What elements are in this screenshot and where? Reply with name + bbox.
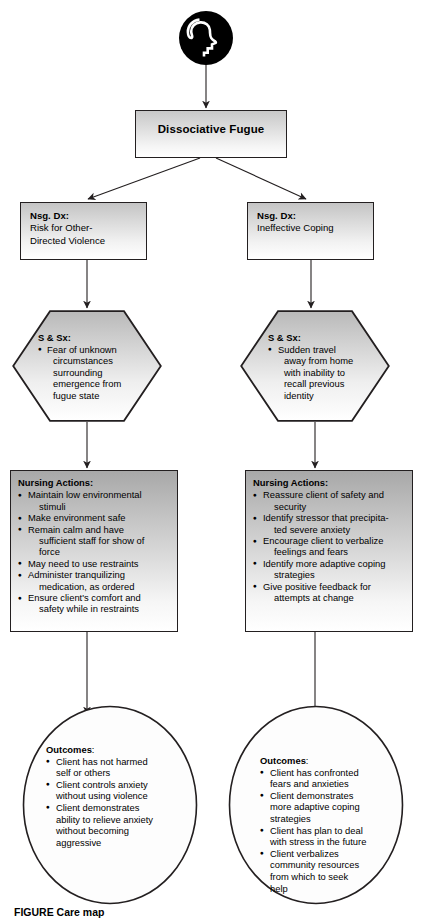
oc-left-item-2-cont-2: aggressive: [56, 837, 181, 849]
signs-symptoms-left-item-0-cont-1: surrounding: [47, 367, 154, 379]
na-left-item-4-cont-0: medication, as ordered: [28, 581, 172, 592]
care-map-diagram: Dissociative Fugue Nsg. Dx: Risk for Oth…: [0, 0, 424, 918]
signs-symptoms-right-list: Sudden travel away from home with inabil…: [268, 344, 384, 402]
nursing-actions-left-header: Nursing Actions:: [18, 477, 172, 488]
outcomes-left-header-word: Outcomes: [46, 744, 92, 755]
outcomes-left-header-colon: :: [92, 744, 95, 755]
signs-symptoms-left-item-0-cont-0: circumstances: [47, 355, 154, 367]
oc-right-item-3-cont-0: community resources: [270, 859, 392, 871]
signs-symptoms-left-item-0-cont-2: emergence from: [47, 378, 154, 390]
outcomes-left-text: Outcomes: Client has not harmed self or …: [46, 744, 181, 848]
oc-left-item-2-cont-1: without becoming: [56, 825, 181, 837]
oc-left-item-2-cont-0: ability to relieve anxiety: [56, 814, 181, 826]
na-right-item-2: Encourage client to verbalize: [263, 535, 383, 546]
list-item: Client controls anxiety without using vi…: [46, 779, 181, 802]
na-left-item-2-cont-1: force: [28, 546, 172, 557]
list-item: Identify more adaptive coping strategies: [253, 558, 407, 581]
na-right-item-3: Identify more adaptive coping: [263, 558, 385, 569]
na-left-item-0-cont-0: stimuli: [28, 501, 172, 512]
node-signs-symptoms-left[interactable]: S & Sx: Fear of unknown circumstances su…: [12, 310, 162, 422]
oc-right-item-3: Client verbalizes: [270, 848, 339, 859]
list-item: Give positive feedback for attempts at c…: [253, 581, 407, 604]
na-left-item-3: May need to use restraints: [28, 558, 138, 569]
na-left-item-2: Remain calm and have: [28, 524, 124, 535]
list-item: Administer tranquilizing medication, as …: [18, 569, 172, 592]
list-item: Fear of unknown circumstances surroundin…: [38, 344, 154, 402]
node-outcomes-left[interactable]: Outcomes: Client has not harmed self or …: [22, 705, 198, 905]
list-item: Client has plan to deal with stress in t…: [260, 825, 392, 848]
na-left-item-2-cont-0: sufficient staff for show of: [28, 535, 172, 546]
list-item: Client demonstrates more adaptive coping…: [260, 790, 392, 825]
oc-left-item-0: Client has not harmed: [56, 756, 148, 767]
list-item: Client demonstrates ability to relieve a…: [46, 802, 181, 848]
na-left-item-1: Make environment safe: [28, 512, 125, 523]
oc-right-item-3-cont-1: from which to seek: [270, 871, 392, 883]
oc-right-item-2-cont-0: with stress in the future: [270, 836, 392, 848]
signs-symptoms-right-item-0-cont-1: with inability to: [278, 367, 384, 379]
list-item: Client has confronted fears and anxietie…: [260, 767, 392, 790]
signs-symptoms-left-item-0-cont-3: fugue state: [47, 390, 154, 402]
oc-right-item-1-cont-0: more adaptive coping: [270, 801, 392, 813]
oc-right-item-2: Client has plan to deal: [270, 825, 363, 836]
list-item: Remain calm and have sufficient staff fo…: [18, 524, 172, 558]
outcomes-right-list: Client has confronted fears and anxietie…: [260, 767, 392, 895]
nursing-diagnosis-left-line-2: Directed Violence: [30, 235, 146, 247]
node-nursing-actions-left[interactable]: Nursing Actions: Maintain low environmen…: [10, 470, 178, 632]
outcomes-left-list: Client has not harmed self or others Cli…: [46, 756, 181, 849]
oc-right-item-0: Client has confronted: [270, 767, 359, 778]
signs-symptoms-right-item-0-first: Sudden travel: [278, 344, 336, 355]
node-nursing-diagnosis-left[interactable]: Nsg. Dx: Risk for Other- Directed Violen…: [20, 202, 147, 260]
oc-right-item-3-cont-2: help: [270, 883, 392, 895]
figure-caption: FIGURE Care map: [14, 906, 414, 918]
list-item: Client verbalizes community resources fr…: [260, 848, 392, 894]
signs-symptoms-left-list: Fear of unknown circumstances surroundin…: [38, 344, 154, 402]
oc-right-item-0-cont-0: fears and anxieties: [270, 778, 392, 790]
signs-symptoms-left-header: S & Sx:: [38, 332, 154, 344]
nursing-diagnosis-right-header: Nsg. Dx:: [257, 210, 373, 222]
outcomes-right-header-word: Outcomes: [260, 755, 306, 766]
na-right-item-4: Give positive feedback for: [263, 581, 371, 592]
oc-left-item-0-cont-0: self or others: [56, 767, 181, 779]
outcomes-left-header: Outcomes:: [46, 744, 181, 756]
na-right-item-0: Reassure client of safety and: [263, 489, 384, 500]
list-item: Identify stressor that precipita- ted se…: [253, 512, 407, 535]
node-dissociative-fugue-label: Dissociative Fugue: [158, 123, 265, 135]
outcomes-right-text: Outcomes: Client has confronted fears an…: [260, 755, 392, 894]
na-left-item-5: Ensure client's comfort and: [28, 592, 141, 603]
na-right-item-2-cont-0: feelings and fears: [263, 546, 407, 557]
list-item: Maintain low environmental stimuli: [18, 489, 172, 512]
list-item: Client has not harmed self or others: [46, 756, 181, 779]
signs-symptoms-right-item-0-cont-2: recall previous: [278, 378, 384, 390]
nursing-actions-right-header: Nursing Actions:: [253, 477, 407, 488]
nursing-diagnosis-left-header: Nsg. Dx:: [30, 210, 146, 222]
na-right-item-0-cont-0: security: [263, 501, 407, 512]
na-right-item-1: Identify stressor that precipita-: [263, 512, 389, 523]
na-left-item-4: Administer tranquilizing: [28, 569, 125, 580]
oc-right-item-1-cont-1: strategies: [270, 813, 392, 825]
oc-right-item-1: Client demonstrates: [270, 790, 353, 801]
nursing-diagnosis-right-line-1: Ineffective Coping: [257, 222, 373, 234]
nursing-actions-right-list: Reassure client of safety and security I…: [253, 489, 407, 603]
na-right-item-1-cont-0: ted severe anxiety: [263, 524, 407, 535]
nursing-actions-left-list: Maintain low environmental stimuli Make …: [18, 489, 172, 614]
na-left-item-0: Maintain low environmental: [28, 489, 142, 500]
node-dissociative-fugue[interactable]: Dissociative Fugue: [135, 110, 287, 158]
outcomes-right-header: Outcomes:: [260, 755, 392, 767]
figure-caption-text: FIGURE Care map: [14, 906, 104, 918]
oc-left-item-1-cont-0: without using violence: [56, 790, 181, 802]
oc-left-item-1: Client controls anxiety: [56, 779, 148, 790]
list-item: May need to use restraints: [18, 558, 172, 569]
list-item: Encourage client to verbalize feelings a…: [253, 535, 407, 558]
na-right-item-4-cont-0: attempts at change: [263, 592, 407, 603]
outcomes-right-header-colon: :: [306, 755, 309, 766]
signs-symptoms-right-header: S & Sx:: [268, 332, 384, 344]
node-signs-symptoms-right[interactable]: S & Sx: Sudden travel away from home wit…: [240, 310, 390, 422]
list-item: Ensure client's comfort and safety while…: [18, 592, 172, 615]
signs-symptoms-left-item-0-first: Fear of unknown: [47, 344, 117, 355]
signs-symptoms-left-text: S & Sx: Fear of unknown circumstances su…: [38, 332, 154, 402]
node-nursing-actions-right[interactable]: Nursing Actions: Reassure client of safe…: [245, 470, 413, 632]
node-nursing-diagnosis-right[interactable]: Nsg. Dx: Ineffective Coping: [247, 202, 374, 260]
list-item: Sudden travel away from home with inabil…: [268, 344, 384, 402]
node-outcomes-right[interactable]: Outcomes: Client has confronted fears an…: [228, 705, 404, 905]
head-profile-icon: [178, 10, 234, 66]
